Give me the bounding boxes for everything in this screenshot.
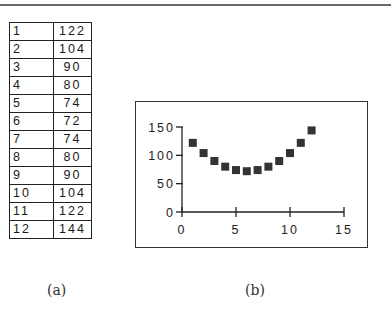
caption-b: (b)	[245, 282, 265, 298]
data-point-marker	[308, 126, 316, 134]
caption-a: (a)	[47, 282, 66, 298]
x-tick-label: 10	[281, 223, 299, 237]
x-tick-label: 0	[178, 223, 187, 237]
data-point-marker	[189, 139, 197, 147]
data-point-marker	[243, 167, 251, 175]
data-point-marker	[210, 157, 218, 165]
data-point-marker	[275, 157, 283, 165]
data-point-marker	[286, 149, 294, 157]
data-point-marker	[264, 163, 272, 171]
y-tick-label: 0	[166, 206, 175, 220]
data-point-marker	[232, 166, 240, 174]
data-point-marker	[221, 163, 229, 171]
data-point-marker	[200, 149, 208, 157]
y-tick-label: 100	[148, 149, 175, 163]
x-tick-label: 15	[335, 223, 353, 237]
data-point-marker	[297, 139, 305, 147]
chart-axes: 051015050100150	[148, 121, 353, 238]
data-point-marker	[254, 166, 262, 174]
y-tick-label: 150	[148, 121, 175, 135]
x-tick-label: 5	[232, 223, 241, 237]
scatter-plot: 051015050100150	[0, 0, 391, 309]
chart-points	[189, 126, 316, 175]
y-tick-label: 50	[157, 177, 175, 191]
